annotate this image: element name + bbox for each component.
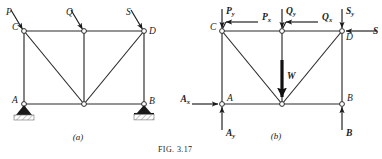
force-label-px: Px: [262, 12, 272, 23]
joint-b: [340, 102, 345, 107]
load-label-p: P: [5, 7, 12, 17]
ground-hatch: [134, 114, 154, 120]
figure-caption: FIG. 3.17: [158, 145, 193, 154]
joint-label-d: D: [148, 26, 156, 36]
member-left-diagonal: [24, 31, 84, 104]
joint-label-c: C: [12, 22, 19, 32]
joint-f: [82, 102, 87, 107]
member-right-diagonal: [84, 31, 144, 104]
joint-label-b: B: [149, 96, 155, 106]
joint-label-a: A: [11, 95, 18, 105]
panel-b-forces: [192, 9, 376, 130]
force-label-py: Py: [226, 6, 235, 17]
joint-a: [220, 102, 225, 107]
force-label-qx: Qx: [322, 12, 333, 23]
panel-a-caption: (a): [73, 132, 84, 142]
force-px-stem: [223, 22, 226, 29]
roller-triangle-icon: [137, 105, 151, 113]
force-label-qy: Qy: [286, 6, 296, 17]
member-right-diagonal: [282, 31, 342, 104]
joint-c: [220, 29, 225, 34]
support-pin-a: [14, 105, 34, 120]
pin-triangle-icon: [16, 105, 32, 115]
joint-c: [22, 29, 27, 34]
joint-e: [280, 29, 285, 34]
force-label-sy: Sy: [346, 6, 354, 17]
truss-figure-svg: P Q S C D A B (a): [0, 0, 382, 159]
panel-b-caption: (b): [271, 131, 282, 141]
force-label-ax: Ax: [179, 94, 190, 105]
load-label-s: S: [126, 7, 131, 17]
support-roller-b: [134, 105, 154, 120]
panel-a: P Q S C D A B (a): [5, 7, 156, 142]
joint-d: [142, 29, 147, 34]
load-arrow-s: [131, 10, 143, 29]
joint-e: [82, 29, 87, 34]
panel-a-members: [24, 31, 144, 104]
joint-d: [340, 29, 345, 34]
force-label-b-reaction: B: [345, 128, 352, 138]
panel-b: Py Px Qy Qx Sy S W Ax Ay B C D A B (b): [179, 6, 378, 141]
force-label-w: W: [287, 71, 296, 81]
panel-a-loads: [11, 10, 143, 29]
joint-label-c: C: [210, 22, 217, 32]
joint-label-d: D: [345, 32, 353, 42]
figure-3-17: P Q S C D A B (a): [0, 0, 382, 159]
force-label-s: S: [373, 26, 378, 36]
load-label-q: Q: [66, 7, 73, 17]
joint-label-b: B: [347, 93, 353, 103]
force-qx-stem: [283, 22, 286, 29]
ground-hatch: [14, 115, 34, 120]
force-label-ay: Ay: [225, 128, 235, 139]
joint-label-a: A: [226, 93, 233, 103]
joint-f: [280, 102, 285, 107]
